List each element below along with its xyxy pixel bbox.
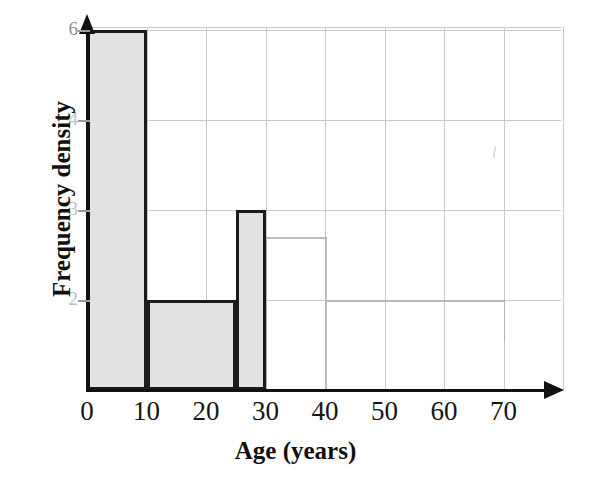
pencil-line-vertical bbox=[325, 237, 327, 390]
pencil-line-horizontal bbox=[325, 300, 504, 302]
histogram-bar bbox=[87, 30, 147, 390]
x-axis-title: Age (years) bbox=[0, 437, 591, 465]
histogram-bar bbox=[147, 300, 236, 390]
gridline-horizontal bbox=[87, 27, 561, 28]
x-tick-label: 40 bbox=[295, 396, 355, 427]
x-axis-arrow-icon bbox=[544, 381, 564, 399]
x-tick-label: 10 bbox=[117, 396, 177, 427]
x-tick-label: 50 bbox=[355, 396, 415, 427]
gridline-vertical bbox=[385, 27, 386, 390]
gridline-horizontal bbox=[87, 30, 561, 31]
x-tick-label: 70 bbox=[474, 396, 534, 427]
gridline-horizontal bbox=[87, 210, 561, 211]
y-tick-mark bbox=[78, 210, 90, 212]
x-tick-label: 0 bbox=[57, 396, 117, 427]
gridline-vertical bbox=[563, 27, 564, 390]
histogram-chart: \ 010203040506070 6432 Age (years) Frequ… bbox=[0, 0, 591, 485]
histogram-bar bbox=[236, 210, 266, 390]
gridline-horizontal bbox=[87, 120, 561, 121]
y-tick-label: 6 bbox=[50, 18, 78, 40]
x-tick-label: 30 bbox=[236, 396, 296, 427]
gridline-vertical bbox=[444, 27, 445, 390]
y-tick-mark bbox=[78, 30, 90, 32]
y-tick-mark bbox=[78, 120, 90, 122]
pencil-line-horizontal bbox=[266, 237, 326, 239]
x-tick-label: 20 bbox=[176, 396, 236, 427]
x-axis-line bbox=[86, 389, 546, 392]
y-axis-title: Frequency density bbox=[48, 49, 76, 349]
x-tick-label: 60 bbox=[414, 396, 474, 427]
pencil-line-vertical bbox=[266, 237, 268, 390]
y-tick-mark bbox=[78, 300, 90, 302]
pencil-line-vertical bbox=[504, 300, 506, 342]
